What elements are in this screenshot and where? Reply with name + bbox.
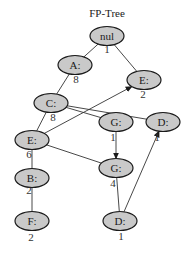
node-label: E: <box>27 134 37 146</box>
edges-layer <box>32 44 159 212</box>
node-label: D: <box>115 215 126 227</box>
node-label: G: <box>111 116 122 128</box>
edge-e2-to-g2 <box>47 145 102 163</box>
node-label: F: <box>27 215 36 227</box>
node-a: A:8 <box>58 56 92 86</box>
diagram-title: FP-Tree <box>89 7 125 19</box>
node-g2: G:4 <box>99 159 133 190</box>
node-count: 8 <box>50 111 56 123</box>
node-count: 6 <box>26 148 32 160</box>
node-label: E: <box>139 74 149 86</box>
node-d1: D:1 <box>146 113 180 144</box>
node-count: 4 <box>110 177 116 189</box>
node-label: D: <box>158 116 169 128</box>
node-count: 1 <box>104 43 110 55</box>
edge-g2-to-d2 <box>117 178 120 212</box>
node-f: F:2 <box>15 212 49 244</box>
node-count: 2 <box>28 231 34 243</box>
fp-tree-diagram: FP-Tree nul1A:8E:2C:8G:1D:1E:6G:4B:2D:1F… <box>0 0 194 257</box>
node-label: C: <box>46 97 56 109</box>
fp-tree-canvas: FP-Tree nul1A:8E:2C:8G:1D:1E:6G:4B:2D:1F… <box>0 0 194 257</box>
node-count: 1 <box>154 131 160 143</box>
edge-c-to-e2 <box>37 112 47 131</box>
node-d2: D:1 <box>103 212 137 243</box>
node-count: 2 <box>26 184 32 196</box>
node-label: G: <box>111 162 122 174</box>
node-e1: E:2 <box>127 71 161 101</box>
edge-nul-to-a <box>84 44 98 57</box>
node-count: 8 <box>73 73 79 85</box>
node-count: 2 <box>140 88 146 100</box>
node-label: A: <box>70 59 81 71</box>
edge-a-to-c <box>57 74 70 94</box>
edge-nul-to-e1 <box>114 45 137 72</box>
node-label: B: <box>27 172 37 184</box>
node-c: C:8 <box>34 94 68 124</box>
nodes-layer: nul1A:8E:2C:8G:1D:1E:6G:4B:2D:1F:2 <box>15 27 180 244</box>
node-count: 1 <box>118 230 124 242</box>
node-count: 1 <box>110 131 116 143</box>
node-label: nul <box>100 30 114 42</box>
